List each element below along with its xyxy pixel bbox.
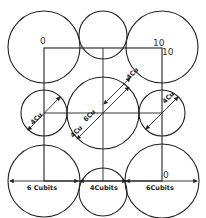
dim-label-bottom-right: 6Cubits <box>146 184 174 192</box>
circle-square-diagram: 0 10 10 0 6 Cubits 4Cubits 6Cubits 4Cu 6… <box>0 0 206 218</box>
dim-label-bottom-middle: 4Cubits <box>90 184 118 192</box>
diag-label-left-small: 4Cu <box>29 111 45 127</box>
diag-label-center-small: 4Cu <box>69 124 85 140</box>
diag-label-right-small: 4Cu <box>161 90 177 106</box>
label-top-left: 0 <box>40 36 46 46</box>
label-top-right-lower: 10 <box>162 47 174 57</box>
label-bottom-right: 0 <box>163 170 169 180</box>
diag-arrow-top <box>104 78 130 104</box>
dim-label-bottom-left: 6 Cubits <box>27 184 57 192</box>
diag-label-top: 4Cu <box>125 66 141 82</box>
